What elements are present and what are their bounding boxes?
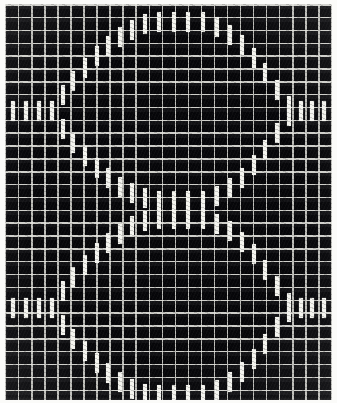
data-tick [143, 14, 147, 34]
graph-paper-plate [5, 4, 332, 400]
data-tick [11, 101, 15, 121]
data-tick [275, 276, 279, 296]
data-tick [201, 209, 205, 229]
data-tick [310, 101, 314, 121]
data-tick [118, 177, 122, 197]
data-tick [240, 168, 244, 188]
data-tick [252, 349, 256, 369]
data-tick [83, 341, 87, 361]
data-tick [71, 267, 75, 287]
data-tick [130, 20, 134, 40]
data-tick [106, 168, 110, 188]
data-tick [186, 385, 190, 400]
data-marks-layer [5, 4, 332, 400]
data-tick [252, 244, 256, 264]
data-tick [263, 140, 267, 160]
data-tick [275, 123, 279, 143]
data-tick [71, 329, 75, 349]
data-tick [83, 58, 87, 78]
data-tick [83, 255, 87, 275]
data-tick [143, 188, 147, 208]
data-tick [240, 362, 244, 382]
data-tick [61, 85, 65, 105]
data-tick [172, 385, 176, 400]
data-tick [50, 298, 54, 318]
data-tick [228, 372, 232, 392]
data-tick [157, 12, 161, 32]
data-tick [106, 233, 110, 253]
data-tick [118, 224, 122, 244]
data-tick [215, 214, 219, 234]
data-tick [172, 209, 176, 229]
data-tick [299, 101, 303, 121]
data-tick [322, 101, 326, 121]
data-tick [71, 71, 75, 91]
data-tick [118, 372, 122, 392]
data-tick [215, 17, 219, 37]
data-tick [252, 155, 256, 175]
data-tick [240, 232, 244, 252]
data-tick [130, 216, 134, 236]
data-tick [95, 158, 99, 178]
chart-figure: Sinusoidal trace on graph paper [0, 0, 337, 403]
data-tick [106, 36, 110, 56]
data-tick [71, 133, 75, 153]
data-tick [61, 119, 65, 139]
data-tick [130, 183, 134, 203]
data-tick [157, 209, 161, 229]
data-tick [95, 46, 99, 66]
data-tick [172, 12, 176, 32]
data-tick [37, 101, 41, 121]
data-tick [263, 334, 267, 354]
data-tick [24, 101, 28, 121]
data-tick [228, 221, 232, 241]
data-tick [275, 317, 279, 337]
data-tick [287, 302, 291, 322]
data-tick [263, 63, 267, 83]
data-tick [83, 146, 87, 166]
data-tick [130, 379, 134, 399]
data-tick [50, 101, 54, 121]
data-tick [322, 298, 326, 318]
data-tick [157, 385, 161, 400]
data-tick [24, 298, 28, 318]
data-tick [61, 315, 65, 335]
data-tick [37, 298, 41, 318]
data-tick [252, 48, 256, 68]
data-tick [215, 380, 219, 400]
data-tick [263, 260, 267, 280]
data-tick [228, 178, 232, 198]
data-tick [186, 12, 190, 32]
data-tick [275, 80, 279, 100]
data-tick [240, 35, 244, 55]
data-tick [228, 25, 232, 45]
data-tick [310, 298, 314, 318]
data-tick [299, 298, 303, 318]
data-tick [215, 186, 219, 206]
data-tick [118, 27, 122, 47]
data-tick [201, 12, 205, 32]
data-tick [95, 243, 99, 263]
data-tick [106, 363, 110, 383]
data-tick [11, 298, 15, 318]
data-tick [201, 385, 205, 400]
data-tick [287, 106, 291, 126]
data-tick [143, 211, 147, 231]
data-tick [186, 209, 190, 229]
data-tick [95, 353, 99, 373]
data-tick [143, 384, 147, 400]
data-tick [61, 281, 65, 301]
